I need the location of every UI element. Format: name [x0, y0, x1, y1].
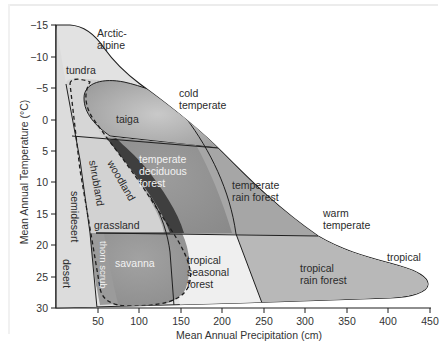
label-grassland: grassland [94, 219, 140, 231]
y-tick-label: −10 [30, 51, 48, 63]
x-tick-label: 400 [379, 315, 397, 327]
y-tick-label: 0 [42, 114, 48, 126]
biome-diagram: −15 −10 −5 0 5 10 15 20 25 30 50 100 15 [0, 0, 448, 351]
frame-top-border [8, 4, 438, 6]
label-temperate-deciduous-2: deciduous [139, 165, 187, 177]
x-tick-label: 200 [213, 315, 231, 327]
x-tick-label: 300 [296, 315, 314, 327]
label-tropical-zone: tropical [387, 251, 421, 263]
x-tick-label: 100 [130, 315, 148, 327]
label-cold-temperate-2: temperate [179, 99, 226, 111]
label-warm-temperate-1: warm [322, 207, 349, 219]
frame-left-border [8, 4, 10, 334]
x-tick-label: 450 [421, 315, 439, 327]
label-cold-temperate-1: cold [179, 87, 198, 99]
label-thorn-scrub: thorn scrub [98, 241, 109, 289]
label-tropical-seasonal-1: tropical [187, 254, 221, 266]
x-tick-label: 50 [92, 315, 104, 327]
label-semidesert: semidesert [69, 191, 81, 242]
label-temperate-deciduous-3: forest [139, 177, 165, 189]
x-ticks [98, 308, 430, 313]
label-desert: desert [61, 259, 73, 288]
label-arctic-alpine-2: alpine [97, 39, 125, 51]
y-tick-labels: −15 −10 −5 0 5 10 15 20 25 30 [30, 19, 48, 314]
label-savanna: savanna [115, 257, 155, 269]
label-tropical-seasonal-2: seasonal [187, 266, 229, 278]
y-tick-label: 5 [42, 145, 48, 157]
y-tick-label: 15 [36, 208, 48, 220]
y-tick-label: 20 [36, 239, 48, 251]
x-tick-label: 350 [338, 315, 356, 327]
label-temperate-deciduous-1: temperate [139, 153, 186, 165]
diagram-frame: −15 −10 −5 0 5 10 15 20 25 30 50 100 15 [0, 0, 448, 351]
label-warm-temperate-2: temperate [323, 219, 370, 231]
x-tick-label: 250 [255, 315, 273, 327]
x-tick-label: 150 [172, 315, 190, 327]
x-axis-title: Mean Annual Precipitation (cm) [176, 329, 322, 341]
y-tick-label: 30 [36, 302, 48, 314]
y-tick-label: −5 [36, 82, 48, 94]
x-tick-labels: 50 100 150 200 250 300 350 400 450 [92, 315, 439, 327]
y-axis-title: Mean Annual Temperature (°C) [18, 100, 30, 245]
y-tick-label: 10 [36, 176, 48, 188]
label-tundra: tundra [66, 64, 96, 76]
y-ticks [51, 25, 56, 308]
y-tick-label: −15 [30, 19, 48, 31]
label-temperate-rain-forest-2: rain forest [232, 191, 279, 203]
y-tick-label: 25 [36, 271, 48, 283]
label-temperate-rain-forest-1: temperate [232, 179, 279, 191]
label-arctic-alpine-1: Arctic- [97, 27, 127, 39]
label-tropical-rain-forest-1: tropical [300, 262, 334, 274]
label-taiga: taiga [116, 113, 139, 125]
label-tropical-seasonal-3: forest [187, 278, 213, 290]
label-tropical-rain-forest-2: rain forest [300, 274, 347, 286]
